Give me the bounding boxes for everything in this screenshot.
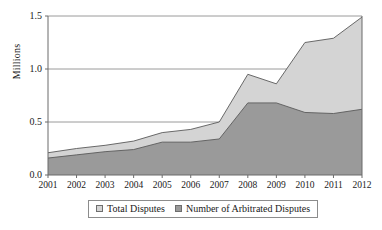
x-tick-label: 2002 (67, 180, 86, 190)
x-tick-label: 2009 (267, 180, 286, 190)
plot-area: 0.00.51.01.52001200220032004200520062007… (0, 0, 382, 230)
legend-item-arbitrated-disputes[interactable]: Number of Arbitrated Disputes (175, 203, 310, 214)
legend-label-arbitrated-disputes: Number of Arbitrated Disputes (186, 203, 310, 214)
x-tick-label: 2005 (153, 180, 172, 190)
chart-legend: Total Disputes Number of Arbitrated Disp… (88, 200, 318, 218)
area-chart: Millions 0.00.51.01.52001200220032004200… (0, 0, 382, 230)
x-tick-label: 2001 (39, 180, 58, 190)
x-tick-label: 2011 (324, 180, 343, 190)
y-tick-label: 0.0 (30, 169, 43, 180)
x-tick-label: 2010 (295, 180, 314, 190)
x-tick-label: 2012 (353, 180, 372, 190)
y-tick-label: 1.0 (30, 63, 43, 74)
y-tick-label: 1.5 (30, 10, 43, 21)
y-tick-label: 0.5 (30, 116, 43, 127)
legend-swatch-total-disputes (96, 205, 103, 212)
x-tick-label: 2008 (238, 180, 257, 190)
legend-item-total-disputes[interactable]: Total Disputes (96, 203, 165, 214)
x-tick-label: 2004 (124, 180, 143, 190)
x-tick-label: 2003 (96, 180, 115, 190)
legend-swatch-arbitrated-disputes (175, 205, 182, 212)
x-tick-label: 2006 (181, 180, 200, 190)
legend-label-total-disputes: Total Disputes (107, 203, 165, 214)
x-tick-label: 2007 (210, 180, 229, 190)
